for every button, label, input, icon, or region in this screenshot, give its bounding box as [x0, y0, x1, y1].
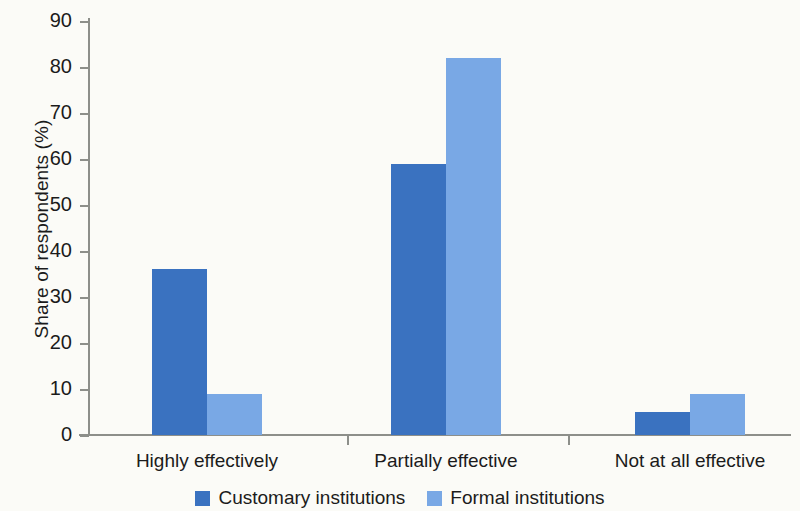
bar [635, 412, 690, 435]
legend-swatch-icon [195, 491, 210, 506]
legend-label: Formal institutions [450, 487, 604, 509]
bar [446, 58, 501, 435]
y-tick-mark [80, 435, 89, 437]
legend-item[interactable]: Customary institutions [195, 487, 405, 509]
bar [391, 164, 446, 435]
bar [207, 394, 262, 435]
x-tick-mark [347, 436, 349, 445]
legend-item[interactable]: Formal institutions [427, 487, 604, 509]
bar [152, 269, 207, 435]
legend-swatch-icon [427, 491, 442, 506]
bars-layer [0, 0, 800, 435]
legend-label: Customary institutions [218, 487, 405, 509]
bar-chart: Share of respondents (%) 010203040506070… [0, 0, 800, 511]
bar [690, 394, 745, 435]
x-tick-mark [568, 436, 570, 445]
chart-legend: Customary institutionsFormal institution… [0, 487, 800, 509]
x-category-label: Not at all effective [540, 450, 800, 472]
